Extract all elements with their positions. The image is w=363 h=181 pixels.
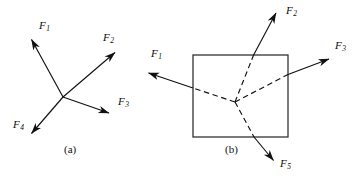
label-f5-panel-b: F5 <box>280 158 291 169</box>
line-of-action-f3-interior <box>235 75 288 103</box>
panel-b-interior-lines-of-action <box>193 55 288 137</box>
label-f1-panel-a: F1 <box>39 20 50 31</box>
vector-f4-panel-a <box>32 97 64 134</box>
label-f1-panel-b: F1 <box>151 48 162 59</box>
label-f2-panel-b: F2 <box>286 5 297 16</box>
caption-panel-a: (a) <box>64 144 76 155</box>
rigid-body-rectangle <box>193 55 288 137</box>
caption-panel-b: (b) <box>225 144 238 155</box>
vector-f2-panel-a <box>63 53 115 98</box>
line-of-action-f5-interior <box>235 102 254 137</box>
label-f2-panel-a: F2 <box>103 32 114 43</box>
vector-f3-panel-a <box>63 97 109 113</box>
vector-f1-panel-a <box>32 40 64 98</box>
line-of-action-f2-interior <box>235 55 254 102</box>
label-f3-panel-b: F3 <box>335 40 346 51</box>
vector-f5-panel-b <box>254 137 274 161</box>
figure-vector-canvas <box>0 0 363 181</box>
panel-b-vectors <box>149 13 330 161</box>
force-diagram-figure: F1 F2 F3 F4 (a) F1 F2 F3 F5 (b) <box>0 0 363 181</box>
panel-a-vectors <box>32 40 116 134</box>
line-of-action-f1-interior <box>193 88 235 102</box>
vector-f3-panel-b <box>288 59 329 75</box>
vector-f1-panel-b <box>149 73 194 88</box>
label-f3-panel-a: F3 <box>118 96 129 107</box>
label-f4-panel-a: F4 <box>13 119 24 130</box>
vector-f2-panel-b <box>254 13 276 55</box>
panel-b-body <box>193 55 288 137</box>
